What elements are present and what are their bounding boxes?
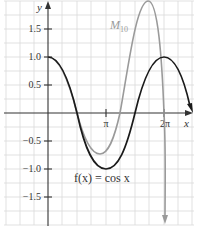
y-axis-label: y: [36, 1, 42, 13]
cos-label: f(x) = cos x: [74, 171, 130, 185]
x-tick-pi: π: [103, 118, 108, 129]
y-tick-1.0: 1.0: [29, 51, 42, 62]
chart: y x 1.5 1.0 0.5 −0.5 −1.0 −1.5 π 2π M10 …: [0, 0, 197, 232]
y-axis-arrow-icon: [45, 1, 51, 9]
m10-label: M10: [109, 18, 128, 34]
m10-curve: [48, 1, 165, 218]
y-tick-neg-1.0: −1.0: [23, 163, 41, 174]
y-tick-neg-1.5: −1.5: [23, 191, 41, 202]
y-tick-0.5: 0.5: [29, 79, 42, 90]
x-axis-label: x: [183, 117, 189, 129]
y-tick-neg-0.5: −0.5: [23, 135, 41, 146]
m10-label-sub: 10: [120, 25, 128, 34]
m10-arrow-icon: [162, 215, 168, 224]
y-tick-1.5: 1.5: [29, 23, 42, 34]
